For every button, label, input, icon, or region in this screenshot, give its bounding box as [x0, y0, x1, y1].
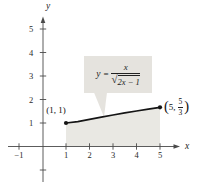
p2-x-value: 5, [169, 103, 176, 112]
area-under-curve [66, 107, 160, 146]
figure: x y −1 1 2 3 4 5 1 2 3 4 5 (1, 1) ( 5, 5… [0, 0, 198, 190]
y-tick-label-4: 4 [29, 48, 33, 57]
formula-radicand: 2x − 1 [118, 75, 140, 86]
x-tick-label-neg1: −1 [14, 150, 23, 159]
callout-tail [94, 93, 107, 117]
formula-lhs: y [96, 70, 100, 80]
formula-equals: = [103, 70, 108, 79]
y-tick-label-1: 1 [29, 119, 33, 128]
x-tick-label-4: 4 [134, 150, 138, 159]
x-tick-label-5: 5 [158, 150, 162, 159]
p2-fraction-numerator: 5 [178, 98, 184, 108]
point-label-5-5-3: ( 5, 5 3 ) [164, 98, 189, 116]
y-tick-label-5: 5 [29, 25, 33, 34]
point-label-1-1: (1, 1) [46, 106, 66, 115]
point-dot-1-1 [64, 121, 68, 125]
formula-callout: y = x √ 2x − 1 [84, 56, 152, 93]
y-axis-label: y [46, 2, 50, 12]
x-tick-label-3: 3 [111, 150, 115, 159]
close-paren: ) [184, 100, 189, 113]
formula-denominator: √ 2x − 1 [111, 74, 139, 86]
y-tick-label-3: 3 [29, 72, 33, 81]
formula-fraction: x √ 2x − 1 [111, 63, 139, 87]
y-tick-label-2: 2 [29, 95, 33, 104]
point-dot-5-5-3 [158, 105, 162, 109]
x-axis-label: x [185, 142, 189, 152]
p2-fraction-denominator: 3 [179, 108, 183, 117]
x-tick-label-1: 1 [64, 150, 68, 159]
x-axis-arrowhead-icon [174, 144, 181, 149]
x-tick-label-2: 2 [87, 150, 91, 159]
y-axis-arrowhead-icon [41, 17, 46, 24]
p2-fraction: 5 3 [178, 98, 184, 116]
